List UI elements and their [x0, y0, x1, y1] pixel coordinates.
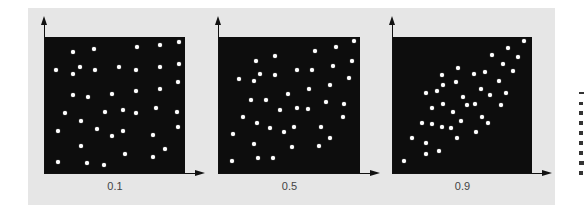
data-point [158, 65, 162, 69]
x-axis [392, 173, 543, 174]
data-point [488, 93, 492, 97]
plot-area [393, 37, 532, 173]
data-point [264, 98, 268, 102]
data-point [256, 156, 260, 160]
data-point [522, 39, 526, 43]
data-point [342, 102, 346, 106]
data-point [511, 69, 515, 73]
data-point [123, 152, 127, 156]
data-point [177, 62, 181, 66]
data-point [465, 103, 469, 107]
data-point [154, 106, 158, 110]
data-point [121, 108, 125, 112]
data-point [286, 92, 290, 96]
data-point [151, 155, 155, 159]
data-point [441, 83, 445, 87]
x-axis-arrow-icon [542, 170, 552, 176]
y-axis-arrow-icon [41, 16, 47, 25]
plot-area [219, 37, 360, 173]
data-point [85, 161, 89, 165]
data-point [258, 72, 262, 76]
data-point [516, 55, 520, 59]
data-point [230, 159, 234, 163]
data-point [268, 126, 272, 130]
data-point [440, 125, 444, 129]
data-point [424, 152, 428, 156]
y-axis [44, 25, 45, 173]
data-point [134, 68, 138, 72]
data-point [461, 95, 465, 99]
data-point [121, 129, 125, 133]
data-point [350, 59, 354, 63]
data-point [134, 89, 138, 93]
x-axis-arrow-icon [195, 170, 205, 176]
data-point [177, 40, 181, 44]
data-point [249, 98, 253, 102]
data-point [331, 64, 335, 68]
data-point [273, 54, 277, 58]
data-point [78, 65, 82, 69]
data-point [480, 115, 484, 119]
data-point [328, 136, 332, 140]
data-point [54, 68, 58, 72]
data-point [79, 144, 83, 148]
data-point [440, 73, 444, 77]
data-point [459, 119, 463, 123]
y-axis [218, 25, 219, 173]
data-point [254, 59, 258, 63]
data-point [175, 110, 179, 114]
data-point [435, 89, 439, 93]
data-point [134, 111, 138, 115]
panel-correlation-label: 0.9 [433, 180, 493, 192]
data-point [56, 129, 60, 133]
data-point [424, 141, 428, 145]
data-point [71, 50, 75, 54]
data-point [504, 91, 508, 95]
data-point [479, 87, 483, 91]
data-point [490, 53, 494, 57]
x-axis [218, 173, 371, 174]
y-axis-arrow-icon [389, 16, 395, 25]
data-point [499, 103, 503, 107]
data-point [486, 121, 490, 125]
data-point [110, 134, 114, 138]
y-axis [392, 25, 393, 173]
data-point [310, 68, 314, 72]
data-point [176, 80, 180, 84]
data-point [341, 115, 345, 119]
x-axis [44, 173, 196, 174]
data-point [252, 142, 256, 146]
data-point [271, 156, 275, 160]
data-point [483, 70, 487, 74]
data-point [71, 93, 75, 97]
data-point [92, 47, 96, 51]
data-point [420, 121, 424, 125]
data-point [102, 163, 106, 167]
data-point [237, 77, 241, 81]
data-point [324, 100, 328, 104]
data-point [410, 136, 414, 140]
data-point [63, 111, 67, 115]
data-point [241, 115, 245, 119]
data-point [424, 91, 428, 95]
data-point [352, 39, 356, 43]
data-point [158, 87, 162, 91]
data-point [295, 68, 299, 72]
data-point [472, 72, 476, 76]
data-point [473, 102, 477, 106]
data-point [455, 136, 459, 140]
data-point [163, 147, 167, 151]
y-axis-arrow-icon [215, 16, 221, 25]
data-point [292, 125, 296, 129]
data-point [501, 62, 505, 66]
data-point [103, 110, 107, 114]
plot-area [45, 37, 185, 173]
data-point [430, 122, 434, 126]
data-point [56, 160, 60, 164]
data-point [252, 79, 256, 83]
data-point [282, 130, 286, 134]
data-point [86, 95, 90, 99]
panel-correlation-label: 0.1 [85, 180, 145, 192]
data-point [328, 83, 332, 87]
data-point [95, 127, 99, 131]
